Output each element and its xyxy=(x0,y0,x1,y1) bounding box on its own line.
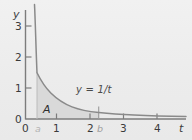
x-tick-label-1: 1 xyxy=(53,123,60,134)
x-tick-label-0: 0 xyxy=(22,123,29,134)
curve-equation-label: y = 1/t xyxy=(76,85,112,95)
x-tick-label-4: 4 xyxy=(154,123,161,134)
x-tick-label-3: 3 xyxy=(120,123,127,134)
y-tick-label-3: 3 xyxy=(15,21,22,32)
y-tick-label-2: 2 xyxy=(15,52,22,63)
y-tick-label-0: 0 xyxy=(15,114,22,125)
plot-svg xyxy=(0,0,192,140)
figure-canvas: y t 0 1 2 3 0 1 2 3 4 a b A y = 1/t xyxy=(0,0,192,140)
lower-bound-label-a: a xyxy=(35,124,41,134)
y-axis-label: y xyxy=(13,9,20,20)
x-axis-label: t xyxy=(179,123,183,134)
upper-bound-label-b: b xyxy=(97,124,103,134)
x-tick-label-2: 2 xyxy=(87,123,94,134)
y-tick-label-1: 1 xyxy=(15,83,22,94)
region-label-A: A xyxy=(43,104,51,115)
